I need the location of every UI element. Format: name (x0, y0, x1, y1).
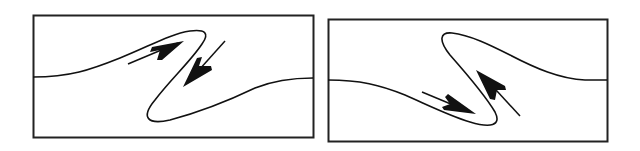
fold-diagram (0, 0, 640, 151)
diagram-canvas (0, 0, 640, 151)
arrow-down-right-icon (422, 92, 476, 114)
arrow-down-left-icon (183, 41, 225, 87)
arrow-up-right-icon (128, 41, 184, 64)
right-panel-frame (329, 20, 608, 142)
right-panel (328, 20, 608, 142)
left-panel (33, 16, 314, 138)
